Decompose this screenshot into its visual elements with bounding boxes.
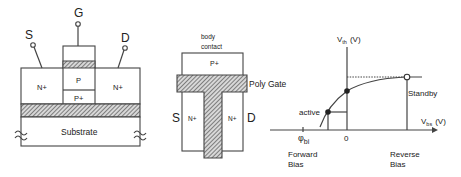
middle-source-region: N+: [188, 115, 197, 122]
channel-region-label: P: [76, 76, 81, 85]
forward-bias-line2: Bias: [288, 160, 304, 169]
phi-bi-label: φbi: [298, 133, 310, 145]
reverse-bias-line1: Reverse: [390, 150, 420, 159]
active-label: active: [299, 108, 320, 117]
middle-drain-label: D: [247, 111, 256, 125]
source-terminal-label: S: [25, 28, 33, 42]
y-axis-label: Vth(V): [337, 35, 361, 45]
forward-bias-line1: Forward: [288, 150, 317, 159]
x-axis-arrow-icon: [432, 127, 438, 133]
standby-label: Standby: [408, 89, 437, 98]
active-point-icon: [325, 109, 331, 115]
x-axis-label: Vbs(V): [421, 117, 446, 127]
reverse-bias-line2: Bias: [390, 160, 406, 169]
source-lead: [34, 47, 42, 68]
vth-vs-vbs-graph: Vth(V) Vbs(V) 0 φbi active Standby Forwa…: [270, 35, 446, 169]
drain-region-label: N+: [113, 83, 123, 92]
drain-terminal-icon: [123, 46, 128, 51]
source-terminal-icon: [31, 43, 36, 48]
middle-source-label: S: [172, 111, 180, 125]
standby-point-icon: [404, 74, 410, 80]
gate-terminal-icon: [76, 22, 81, 27]
soi-cross-section: S G D N+ N+ P P+ Substrate: [15, 6, 146, 146]
poly-gate-label: Poly Gate: [249, 79, 287, 89]
gate-terminal-label: G: [74, 6, 83, 20]
body-region-label: P+: [74, 94, 84, 103]
figure-canvas: S G D N+ N+ P P+ Substrate body contact …: [0, 0, 461, 177]
origin-label: 0: [344, 134, 349, 143]
drain-terminal-label: D: [121, 31, 130, 45]
body-contact-label-line2: contact: [201, 43, 222, 50]
drain-lead: [118, 50, 124, 68]
body-pplus-label: P+: [210, 60, 219, 67]
gate-oxide: [63, 61, 95, 68]
middle-drain-region: N+: [228, 115, 237, 122]
zero-bias-point-icon: [344, 88, 350, 94]
buried-oxide: [21, 104, 140, 117]
substrate-label: Substrate: [61, 127, 98, 137]
body-contact-label-line1: body: [201, 33, 216, 41]
source-region-label: N+: [37, 83, 47, 92]
t-gate-top-view: body contact P+ Poly Gate S D N+ N+: [172, 33, 287, 158]
